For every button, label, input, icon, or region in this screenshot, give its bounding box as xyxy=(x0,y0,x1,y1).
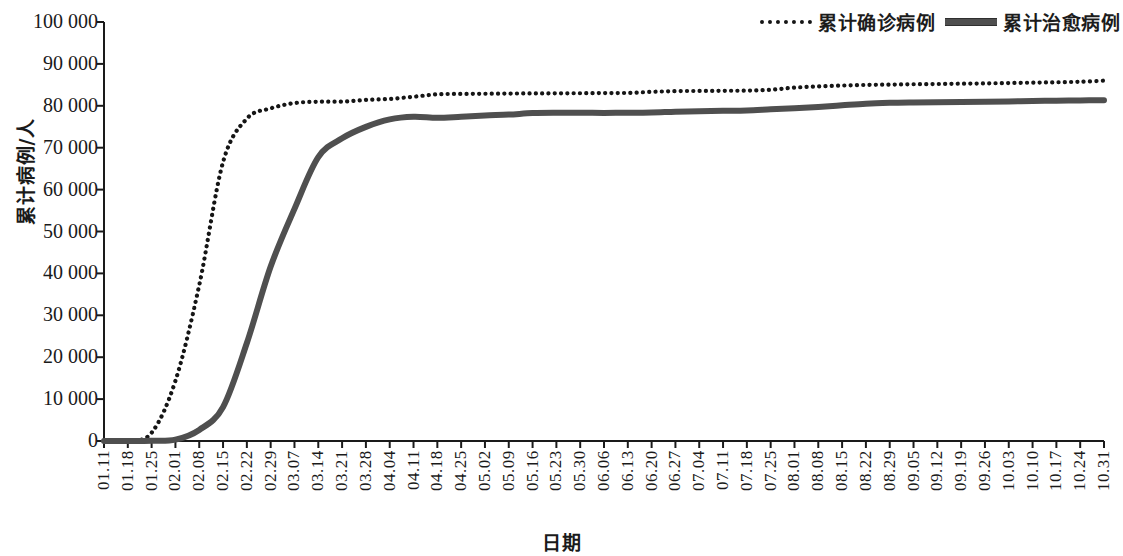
plot-area xyxy=(0,0,1123,556)
axis-lines xyxy=(104,22,1104,441)
chart-figure: 累计确诊病例 累计治愈病例 累计病例/人 日期 100 00090 00080 … xyxy=(0,0,1123,556)
y-axis-tick-marks xyxy=(97,22,104,441)
series-line-cured xyxy=(104,100,1104,441)
data-series-layer xyxy=(104,81,1104,442)
x-axis-tick-marks xyxy=(104,441,1104,448)
series-line-confirmed xyxy=(104,81,1104,442)
